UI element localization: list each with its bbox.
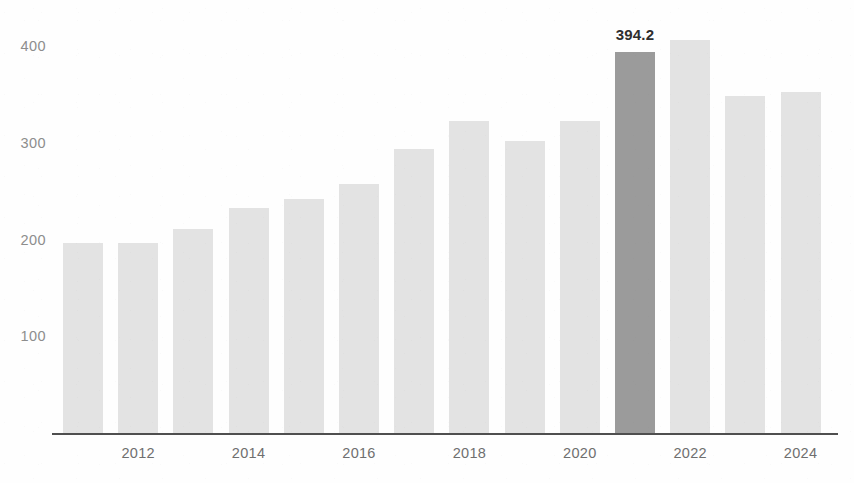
y-axis-tick-label: 100 [0,328,46,344]
y-axis-tick-label: 400 [0,38,46,54]
plot-area: 400300200100 394.2 201220142016201820202… [0,0,854,483]
bar[interactable] [560,121,600,433]
bar[interactable] [725,96,765,433]
x-axis-tick-label: 2024 [784,445,817,461]
bar-value-label: 394.2 [616,26,655,43]
bar[interactable] [339,184,379,433]
x-axis-tick-label: 2014 [232,445,265,461]
bar[interactable] [670,40,710,433]
bar[interactable] [781,92,821,433]
bar-highlighted[interactable] [615,52,655,433]
bar[interactable] [449,121,489,433]
bar[interactable] [505,141,545,433]
bar[interactable] [118,243,158,433]
bar[interactable] [284,199,324,433]
x-axis-tick-label: 2018 [453,445,486,461]
y-axis-tick-label: 300 [0,135,46,151]
x-axis-tick-label: 2020 [563,445,596,461]
bar-chart: 400300200100 394.2 201220142016201820202… [0,0,854,483]
x-axis-tick-label: 2012 [121,445,154,461]
bar[interactable] [394,149,434,433]
y-axis-tick-label: 200 [0,232,46,248]
x-axis-tick-label: 2022 [673,445,706,461]
bar[interactable] [173,229,213,433]
bar[interactable] [63,243,103,433]
bar[interactable] [229,208,269,433]
x-axis-line [52,433,838,435]
x-axis-tick-label: 2016 [342,445,375,461]
